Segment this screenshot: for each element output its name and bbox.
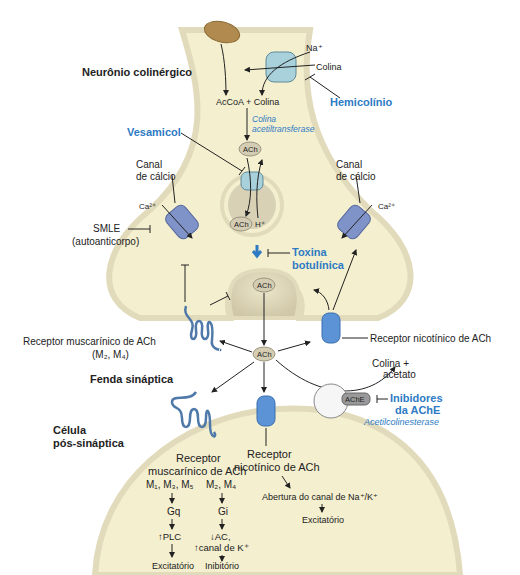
muscarinic-post-label-1: Receptor [176, 452, 221, 464]
m24-label: M₂, M₄ [206, 479, 236, 490]
cholinergic-synapse-diagram: Neurônio colinérgico Na⁺ Colina Hemicolí… [0, 0, 520, 575]
smle-label: SMLE [93, 223, 121, 234]
cleft-title: Fenda sináptica [90, 373, 174, 385]
ca-channel-left-label-2: de cálcio [136, 171, 176, 182]
presynaptic-title: Neurônio colinérgico [82, 66, 192, 78]
nicotinic-receptor-postsynaptic-icon [257, 396, 275, 426]
proton-label: H⁺ [255, 220, 265, 229]
excitatory-right-label: Excitatório [302, 515, 344, 525]
inhibitory-label: Inibitório [205, 561, 239, 571]
postsynaptic-title-2: pós-sináptica [53, 437, 125, 449]
plc-label: ↑PLC [158, 531, 181, 542]
gi-label: Gi [218, 506, 228, 517]
k-channel-label: ↑canal de K⁺ [194, 542, 249, 553]
na-k-channel-opening-label: Abertura do canal de Na⁺/K⁺ [262, 492, 378, 502]
ache-label: AChE [345, 395, 365, 404]
muscarinic-post-label-2: muscarínico de ACh [148, 465, 246, 477]
ach-vesicle: ACh [234, 220, 249, 229]
chat-label-1: Colina [252, 114, 276, 124]
muscarinic-pre-subtypes: (M₂, M₄) [92, 349, 129, 360]
m135-label: M₁, M₃, M₅ [146, 479, 194, 490]
calcium-left-label: Ca²⁺ [139, 202, 156, 211]
ach-release: ACh [257, 281, 272, 290]
acetylcholinesterase-label: Acetilcolinesterase [363, 417, 439, 427]
nicotinic-post-label-2: nicotínico de ACh [234, 461, 320, 473]
choline-acetate-label-2: acetato [383, 369, 416, 380]
ca-channel-right-label-1: Canal [336, 159, 362, 170]
postsynaptic-title-1: Célula [53, 424, 87, 436]
ac-label: ↓AC, [210, 531, 231, 542]
ca-channel-right-label-2: de cálcio [336, 171, 376, 182]
ache-inhibitors-label-1: Inibidores [390, 392, 443, 404]
muscarinic-pre-label: Receptor muscarínico de ACh [23, 336, 156, 347]
excitatory-left-label: Excitatório [152, 561, 194, 571]
nicotinic-receptor-presynaptic-icon [322, 313, 340, 343]
botulinum-label-1: Toxina [292, 246, 328, 258]
chat-label-2: acetiltransferase [252, 124, 315, 134]
smle-sub-label: (autoanticorpo) [72, 236, 139, 247]
nicotinic-post-label-1: Receptor [247, 448, 292, 460]
vesamicol-label: Vesamicol [127, 126, 181, 138]
sodium-label: Na⁺ [306, 43, 323, 53]
ach-cleft: ACh [257, 350, 272, 359]
calcium-right-label: Ca²⁺ [378, 202, 395, 211]
ache-inhibitors-label-2: da AChE [395, 404, 440, 416]
nicotinic-pre-label: Receptor nicotínico de ACh [370, 333, 491, 344]
choline-label: Colina [316, 62, 342, 72]
hemicholinium-label: Hemicolínio [330, 96, 393, 108]
botulinum-label-2: botulínica [292, 259, 345, 271]
acoa-choline-label: AcCoA + Colina [216, 97, 279, 107]
ca-channel-left-label-1: Canal [136, 159, 162, 170]
ach-cytoplasm: ACh [243, 145, 258, 154]
choline-acetate-label-1: Colina + [372, 358, 409, 369]
gq-label: Gq [167, 506, 180, 517]
